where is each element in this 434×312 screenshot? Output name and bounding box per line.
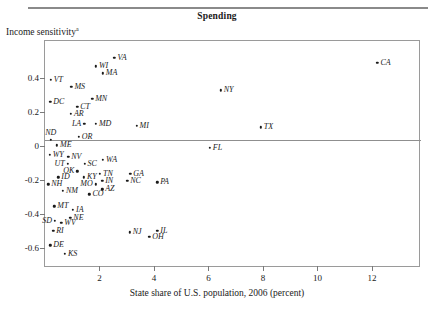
scatter-point [50, 79, 52, 81]
scatter-point-label: WV [64, 219, 76, 227]
scatter-point-label: MT [57, 202, 68, 210]
scatter-point-label: OH [152, 233, 164, 241]
x-tick-label: 2 [97, 273, 102, 283]
scatter-point [129, 231, 131, 233]
scatter-point-label: VA [117, 54, 126, 62]
scatter-point-label: NM [66, 187, 78, 195]
scatter-point [99, 173, 101, 175]
y-tick-label: -0.6 [25, 243, 39, 253]
plot-area: 0.40.20-0.2-0.4-0.6 24681012 VAWICAMAVTM… [44, 40, 420, 267]
y-tick-label: -0.2 [25, 175, 39, 185]
scatter-point [66, 163, 68, 165]
scatter-point [95, 65, 97, 67]
scatter-point-label: AZ [105, 185, 114, 193]
scatter-point [83, 163, 85, 165]
x-tick-label: 4 [152, 273, 157, 283]
x-tick-mark [208, 266, 209, 271]
scatter-point [48, 153, 50, 155]
scatter-point [47, 183, 49, 185]
scatter-point [83, 123, 85, 125]
scatter-point [76, 170, 78, 172]
scatter-point-label: CA [380, 59, 390, 67]
x-tick-mark [263, 266, 264, 271]
scatter-point-label: VT [54, 76, 63, 84]
y-tick-label: 0.2 [28, 107, 39, 117]
scatter-point [91, 97, 93, 99]
scatter-point-label: NV [71, 153, 81, 161]
scatter-point [209, 147, 211, 149]
scatter-point [49, 101, 51, 103]
y-tick-mark [40, 180, 45, 181]
scatter-point-label: ND [45, 129, 56, 137]
scatter-point-label: FL [213, 144, 222, 152]
y-axis-label: Income sensitivitya [6, 26, 79, 37]
scatter-point-label: NC [130, 177, 141, 185]
scatter-point [67, 156, 69, 158]
x-tick-mark [99, 266, 100, 271]
scatter-point-label: OR [82, 133, 93, 141]
scatter-point-label: SD [42, 217, 52, 225]
y-tick-label: 0 [35, 141, 40, 151]
scatter-point-label: SC [88, 160, 97, 168]
x-tick-label: 8 [261, 273, 266, 283]
y-tick-label: 0.4 [28, 73, 39, 83]
scatter-point [156, 181, 158, 183]
scatter-point-label: ID [61, 173, 69, 181]
scatter-point [220, 89, 222, 91]
scatter-point-label: AR [74, 110, 84, 118]
y-tick-mark [40, 112, 45, 113]
scatter-point-label: MN [95, 95, 107, 103]
scatter-point [62, 190, 64, 192]
x-tick-label: 6 [206, 273, 211, 283]
scatter-point-label: NH [51, 180, 62, 188]
scatter-point-label: NY [224, 86, 234, 94]
scatter-point-label: DC [53, 98, 64, 106]
scatter-point [72, 208, 74, 210]
x-tick-label: 10 [313, 273, 322, 283]
scatter-point [70, 86, 72, 88]
scatter-point [101, 180, 103, 182]
scatter-point [113, 57, 115, 59]
scatter-point [126, 180, 128, 182]
scatter-point-label: KS [68, 250, 77, 258]
x-tick-mark [372, 266, 373, 271]
figure-panel: Spending Income sensitivitya 0.40.20-0.2… [0, 0, 434, 312]
scatter-point [64, 252, 66, 254]
scatter-point [88, 193, 90, 195]
scatter-point [376, 62, 378, 64]
scatter-point-label: LA [72, 120, 81, 128]
scatter-point-label: ME [60, 141, 72, 149]
scatter-point [94, 183, 96, 185]
scatter-point-label: RI [56, 227, 64, 235]
scatter-point-label: MO [80, 180, 92, 188]
scatter-point [53, 205, 55, 207]
scatter-point-label: WA [106, 156, 117, 164]
scatter-point [54, 219, 56, 221]
y-tick-mark [40, 146, 45, 147]
top-rule [28, 7, 428, 9]
scatter-point [135, 124, 137, 126]
scatter-point-label: MA [106, 69, 118, 77]
y-tick-mark [40, 78, 45, 79]
scatter-point-label: TX [264, 123, 273, 131]
scatter-point [102, 158, 104, 160]
x-axis-label: State share of U.S. population, 2006 (pe… [0, 288, 434, 298]
scatter-point-label: MS [74, 83, 85, 91]
scatter-point-label: CO [92, 190, 103, 198]
scatter-point [70, 113, 72, 115]
scatter-point-label: PA [160, 178, 169, 186]
x-tick-mark [154, 266, 155, 271]
scatter-point-label: NJ [133, 228, 142, 236]
scatter-point [102, 72, 104, 74]
scatter-point-label: MI [140, 122, 149, 130]
scatter-point-label: DE [53, 241, 64, 249]
zero-reference-line [45, 140, 421, 141]
scatter-point [49, 244, 51, 246]
y-axis-label-footnote-marker: a [76, 26, 79, 32]
x-tick-mark [317, 266, 318, 271]
figure-title: Spending [0, 11, 434, 21]
scatter-point-label: WY [53, 151, 64, 159]
y-tick-mark [40, 248, 45, 249]
y-tick-label: -0.4 [25, 209, 39, 219]
scatter-point [60, 222, 62, 224]
